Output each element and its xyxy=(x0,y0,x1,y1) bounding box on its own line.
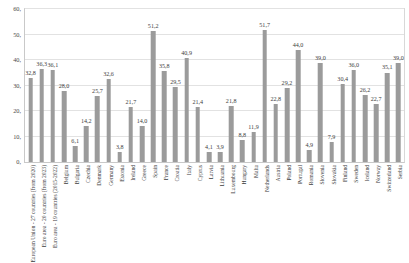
x-label-slot: Italy xyxy=(181,165,192,258)
bar-value-label: 25,7 xyxy=(92,88,103,94)
bar[interactable] xyxy=(106,79,111,162)
bar-value-label: 51,7 xyxy=(259,22,270,28)
bar-slot: 32,6 xyxy=(103,9,114,162)
bar-value-label: 35,1 xyxy=(382,64,393,70)
bar[interactable] xyxy=(251,132,256,162)
bar-slot: 36,0 xyxy=(348,9,359,162)
bar[interactable] xyxy=(374,104,379,162)
bar-slot: 40,9 xyxy=(181,9,192,162)
y-axis-tick-label: 10, xyxy=(0,134,21,140)
bar-slot: 36,1 xyxy=(47,9,58,162)
bar-value-label: 26,2 xyxy=(360,87,371,93)
bar[interactable] xyxy=(385,73,390,163)
bar-value-label: 36,1 xyxy=(48,62,59,68)
bar[interactable] xyxy=(129,107,134,162)
bar[interactable] xyxy=(39,69,44,162)
bar[interactable] xyxy=(296,50,301,162)
bar[interactable] xyxy=(240,140,245,162)
x-label-slot: Ireland xyxy=(125,165,136,258)
bar[interactable] xyxy=(218,152,223,162)
bar[interactable] xyxy=(51,70,56,162)
x-label-slot: Spain xyxy=(148,165,159,258)
bar-value-label: 29,2 xyxy=(282,80,293,86)
x-label-slot: European Union - 27 countries (from 2020… xyxy=(25,165,36,258)
x-label-slot: Finland xyxy=(337,165,348,258)
bar-value-label: 22,7 xyxy=(371,96,382,102)
x-label-slot: Cyprus xyxy=(192,165,203,258)
bar-value-label: 32,8 xyxy=(25,70,36,76)
x-label-slot: Bulgaria xyxy=(70,165,81,258)
bar-slot: 11,9 xyxy=(248,9,259,162)
x-label-slot: Iceland xyxy=(359,165,370,258)
x-label-slot: Euro area - 19 countries (2015-2022) xyxy=(47,165,58,258)
bar-value-label: 28,0 xyxy=(59,83,70,89)
x-label-slot: Slovenia xyxy=(315,165,326,258)
bar[interactable] xyxy=(262,30,267,162)
bar-slot: 44,0 xyxy=(293,9,304,162)
bar-value-label: 36,0 xyxy=(348,62,359,68)
bar-slot: 4,1 xyxy=(203,9,214,162)
x-label-slot: Switzerland xyxy=(382,165,393,258)
bar-slot: 4,9 xyxy=(304,9,315,162)
x-label-slot: Portugal xyxy=(293,165,304,258)
x-label-slot: Hungary xyxy=(237,165,248,258)
bar[interactable] xyxy=(151,31,156,162)
bar-value-label: 4,9 xyxy=(305,142,313,148)
bar-value-label: 29,5 xyxy=(170,79,181,85)
bar-slot: 35,8 xyxy=(159,9,170,162)
bar-value-label: 32,6 xyxy=(103,71,114,77)
bar[interactable] xyxy=(95,96,100,162)
bar[interactable] xyxy=(229,106,234,162)
bar-slot: 8,8 xyxy=(237,9,248,162)
bar-value-label: 14,0 xyxy=(137,118,148,124)
bar-value-label: 35,8 xyxy=(159,63,170,69)
bar[interactable] xyxy=(117,152,122,162)
bar-value-label: 40,9 xyxy=(181,50,192,56)
bar-value-label: 44,0 xyxy=(293,42,304,48)
x-label-slot: Serbia xyxy=(393,165,404,258)
bar[interactable] xyxy=(184,58,189,162)
x-axis-category-label: Serbia xyxy=(398,165,404,179)
bar[interactable] xyxy=(73,146,78,162)
bar[interactable] xyxy=(340,84,345,162)
bar[interactable] xyxy=(28,78,33,162)
bar[interactable] xyxy=(285,88,290,162)
bar-value-label: 39,0 xyxy=(393,55,404,61)
bar[interactable] xyxy=(329,142,334,162)
x-label-slot: Luxembourg xyxy=(226,165,237,258)
bar[interactable] xyxy=(352,70,357,162)
bar-value-label: 3,8 xyxy=(116,144,124,150)
bar[interactable] xyxy=(140,126,145,162)
bar-slot: 29,5 xyxy=(170,9,181,162)
bar[interactable] xyxy=(62,91,67,162)
bar-value-label: 4,1 xyxy=(205,144,213,150)
bar[interactable] xyxy=(396,63,401,162)
bar-value-label: 8,8 xyxy=(239,132,247,138)
bar[interactable] xyxy=(318,63,323,162)
x-label-slot: Czechia xyxy=(81,165,92,258)
bar-slot: 39,0 xyxy=(393,9,404,162)
y-axis-tick-label: 50, xyxy=(0,32,21,38)
bar-slot: 30,4 xyxy=(337,9,348,162)
x-label-slot: Belgium xyxy=(58,165,69,258)
bar[interactable] xyxy=(307,150,312,162)
bar-value-label: 21,7 xyxy=(126,99,137,105)
bar[interactable] xyxy=(162,71,167,162)
bar[interactable] xyxy=(173,87,178,162)
bar-slot: 51,7 xyxy=(259,9,270,162)
bar-slot: 35,1 xyxy=(382,9,393,162)
x-label-slot: Austria xyxy=(270,165,281,258)
x-label-slot: Romania xyxy=(304,165,315,258)
x-label-slot: Norway xyxy=(371,165,382,258)
x-label-slot: Poland xyxy=(281,165,292,258)
x-axis-labels: European Union - 27 countries (from 2020… xyxy=(25,165,404,258)
bar[interactable] xyxy=(207,152,212,162)
bar-slot: 32,8 xyxy=(25,9,36,162)
bar[interactable] xyxy=(274,104,279,162)
bar[interactable] xyxy=(195,107,200,162)
bar[interactable] xyxy=(363,95,368,162)
x-label-slot: Estonia xyxy=(114,165,125,258)
x-label-slot: Latvia xyxy=(203,165,214,258)
bar[interactable] xyxy=(84,126,89,162)
